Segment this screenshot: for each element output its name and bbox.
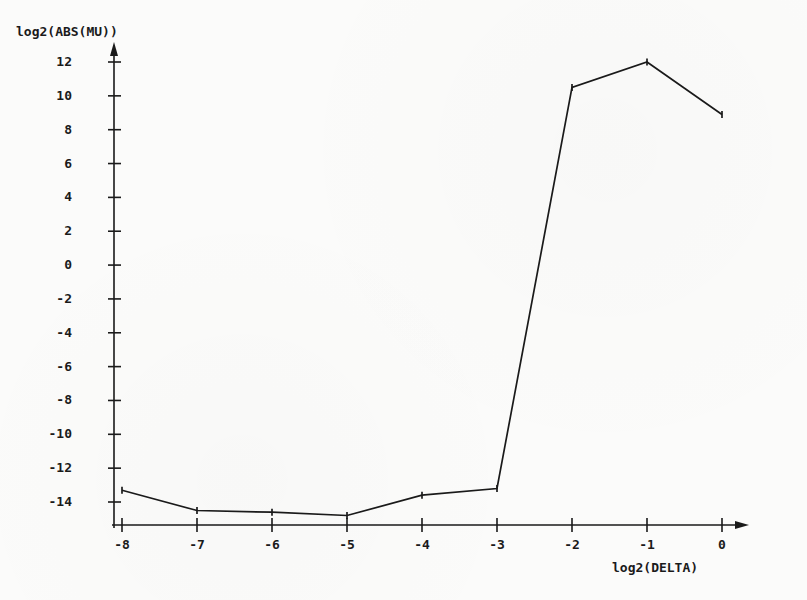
data-series-line <box>122 62 722 516</box>
x-axis-arrowhead <box>735 521 749 529</box>
chart-page: log2(ABS(MU)) log2(DELTA) 121086420-2-4-… <box>0 0 807 600</box>
axis-lines <box>110 42 749 529</box>
data-point-markers <box>122 59 722 520</box>
y-axis-arrowhead <box>110 42 118 56</box>
plot-area <box>0 0 807 600</box>
